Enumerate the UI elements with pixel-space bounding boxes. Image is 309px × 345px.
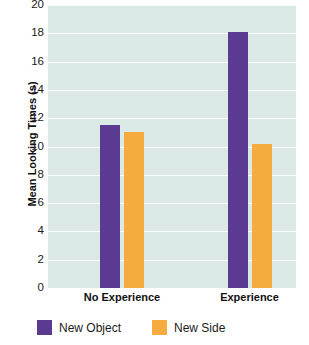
bar — [124, 132, 144, 288]
x-axis-category-labels: No ExperienceExperience — [48, 291, 296, 307]
legend-label: New Object — [59, 321, 121, 335]
y-axis-tick-label: 8 — [16, 169, 44, 181]
legend-color-swatch — [37, 320, 52, 335]
y-axis-tick-label: 6 — [16, 197, 44, 209]
plot-area — [48, 5, 296, 288]
x-axis-category-label: Experience — [220, 291, 279, 303]
x-axis-category-label: No Experience — [84, 291, 160, 303]
y-axis-tick-label: 10 — [16, 141, 44, 153]
bar-chart: Mean Looking Times (s) 20181614121086420… — [0, 0, 309, 345]
legend-entry[interactable]: New Object — [37, 320, 121, 335]
gridline — [48, 118, 296, 119]
y-axis-tick-label: 0 — [16, 282, 44, 294]
legend-color-swatch — [152, 320, 167, 335]
gridline — [48, 90, 296, 91]
y-axis-tick-label: 4 — [16, 226, 44, 238]
y-axis-tick-label: 18 — [16, 28, 44, 40]
y-axis-tick-labels: 20181614121086420 — [16, 0, 44, 345]
bar — [228, 32, 248, 288]
y-axis-tick-label: 16 — [16, 56, 44, 68]
gridline — [48, 62, 296, 63]
y-axis-tick-label: 20 — [16, 0, 44, 11]
bar — [100, 125, 120, 288]
y-axis-tick-label: 2 — [16, 254, 44, 266]
gridline — [48, 5, 296, 6]
chart-legend: New ObjectNew Side — [0, 320, 309, 345]
bar — [252, 144, 272, 288]
y-axis-tick-label: 12 — [16, 112, 44, 124]
y-axis-tick-label: 14 — [16, 84, 44, 96]
gridline — [48, 33, 296, 34]
legend-label: New Side — [174, 321, 225, 335]
legend-entry[interactable]: New Side — [152, 320, 225, 335]
